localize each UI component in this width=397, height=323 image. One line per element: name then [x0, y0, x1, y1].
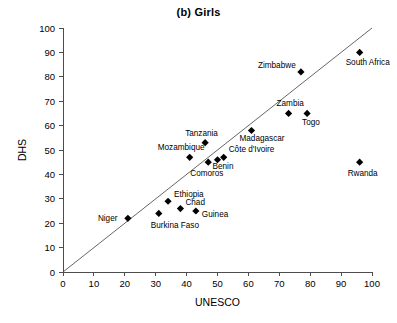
- data-point-label: Tanzania: [185, 129, 218, 138]
- data-point-label: Togo: [302, 118, 320, 127]
- data-point-marker: [164, 198, 171, 205]
- identity-line: [63, 28, 372, 272]
- plot-area: 0102030405060708090100010203040506070809…: [0, 0, 397, 323]
- data-point-marker: [356, 159, 363, 166]
- data-point-label: South Africa: [346, 58, 391, 67]
- data-point-marker: [124, 215, 131, 222]
- x-tick-label: 50: [212, 278, 223, 289]
- x-tick-label: 90: [336, 278, 347, 289]
- y-tick-label: 50: [44, 145, 55, 156]
- y-tick-label: 90: [44, 47, 55, 58]
- y-tick-label: 0: [50, 267, 55, 278]
- y-tick-label: 20: [44, 218, 55, 229]
- data-point-marker: [356, 49, 363, 56]
- data-points-group: NigerBurkina FasoEthiopiaChadGuineaMozam…: [98, 49, 390, 231]
- data-point-label: Rwanda: [348, 169, 378, 178]
- y-tick-label: 10: [44, 242, 55, 253]
- identity-reference-line: [63, 28, 372, 272]
- x-tick-label: 80: [305, 278, 316, 289]
- data-point-marker: [155, 210, 162, 217]
- y-tick-label: 100: [39, 23, 55, 34]
- x-tick-label: 60: [243, 278, 254, 289]
- y-tick-label: 60: [44, 120, 55, 131]
- y-tick-label: 70: [44, 96, 55, 107]
- x-tick-label: 30: [150, 278, 161, 289]
- data-point-label: Zimbabwe: [258, 61, 296, 70]
- data-point-marker: [192, 207, 199, 214]
- scatter-chart: (b) Girls 010203040506070809010001020304…: [0, 0, 397, 323]
- data-point-marker: [248, 127, 255, 134]
- x-tick-label: 0: [60, 278, 65, 289]
- data-point-marker: [220, 154, 227, 161]
- data-point-label: Guinea: [202, 210, 229, 219]
- data-point-marker: [177, 205, 184, 212]
- data-point-marker: [186, 154, 193, 161]
- x-tick-label: 20: [120, 278, 131, 289]
- data-point-marker: [304, 110, 311, 117]
- data-point-label: Zambia: [277, 99, 305, 108]
- x-tick-label: 100: [364, 278, 380, 289]
- y-tick-label: 80: [44, 71, 55, 82]
- data-point-label: Burkina Faso: [151, 221, 200, 230]
- y-tick-label: 40: [44, 169, 55, 180]
- data-point-marker: [285, 110, 292, 117]
- data-point-label: Benin: [213, 162, 234, 171]
- y-axis-title: DHS: [16, 139, 28, 161]
- x-tick-label: 70: [274, 278, 285, 289]
- data-point-label: Chad: [185, 198, 205, 207]
- data-point-label: Niger: [98, 214, 118, 223]
- data-point-label: Côte d'Ivoire: [229, 145, 275, 154]
- x-tick-label: 40: [181, 278, 192, 289]
- x-axis-title: UNESCO: [195, 296, 240, 308]
- data-point-label: Madagascar: [239, 134, 284, 143]
- data-point-marker: [297, 68, 304, 75]
- x-tick-label: 10: [89, 278, 100, 289]
- y-tick-label: 30: [44, 193, 55, 204]
- data-point-label: Mozambique: [158, 143, 205, 152]
